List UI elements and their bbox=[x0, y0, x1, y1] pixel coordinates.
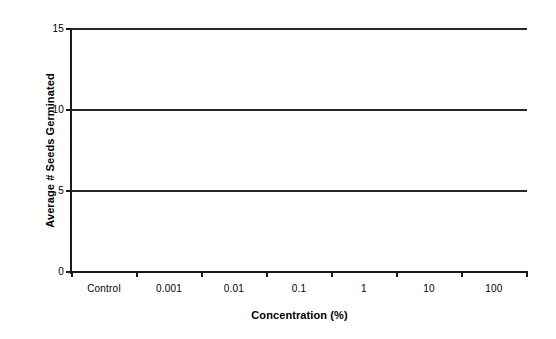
chart-figure: Average # Seeds Germinated 15 10 5 0 Con… bbox=[0, 0, 556, 339]
x-tick-mark-2 bbox=[201, 271, 203, 277]
x-tick-label-0-01: 0.01 bbox=[199, 283, 269, 295]
x-tick-mark-7 bbox=[526, 271, 528, 277]
y-tick-label-15: 15 bbox=[24, 24, 64, 34]
series-line-10 bbox=[71, 109, 527, 111]
x-tick-label-control: Control bbox=[69, 283, 139, 295]
x-tick-mark-0 bbox=[71, 271, 73, 277]
y-axis-title: Average # Seeds Germinated bbox=[42, 29, 58, 272]
x-axis-title: Concentration (%) bbox=[71, 308, 528, 322]
y-tick-label-0: 0 bbox=[24, 267, 64, 277]
series-line-15 bbox=[71, 28, 527, 30]
x-tick-label-1: 1 bbox=[329, 283, 399, 295]
y-tick-label-5: 5 bbox=[24, 186, 64, 196]
x-tick-label-0-1: 0.1 bbox=[264, 283, 334, 295]
x-tick-mark-6 bbox=[461, 271, 463, 277]
y-tick-label-10: 10 bbox=[24, 105, 64, 115]
x-tick-mark-4 bbox=[331, 271, 333, 277]
x-tick-label-100: 100 bbox=[459, 283, 529, 295]
plot-area bbox=[71, 29, 527, 272]
x-tick-label-0-001: 0.001 bbox=[134, 283, 204, 295]
x-tick-label-10: 10 bbox=[394, 283, 464, 295]
x-tick-mark-1 bbox=[136, 271, 138, 277]
series-line-5 bbox=[71, 190, 527, 192]
x-tick-mark-5 bbox=[396, 271, 398, 277]
x-tick-mark-3 bbox=[266, 271, 268, 277]
